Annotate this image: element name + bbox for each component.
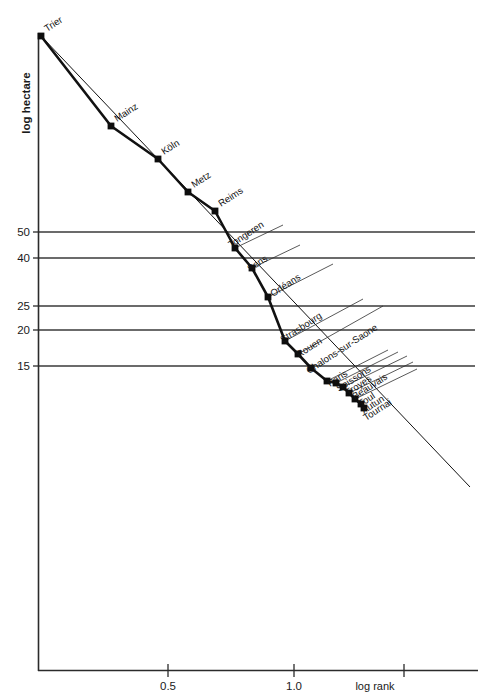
marker-koln [155, 156, 162, 163]
marker-metz [185, 189, 192, 196]
x-axis-title: log rank [355, 680, 395, 692]
chart-background [0, 0, 484, 699]
y-axis-title: log hectare [20, 72, 32, 133]
y-tick-label-50: 50 [17, 226, 30, 238]
marker-reims [212, 208, 219, 215]
x-tick-label-1-0: 1.0 [286, 680, 302, 692]
x-tick-label-0-5: 0.5 [160, 680, 176, 692]
marker-trier [38, 33, 45, 40]
marker-mainz [108, 123, 115, 130]
y-tick-label-25: 25 [17, 300, 30, 312]
y-tick-label-15: 15 [17, 360, 30, 372]
chart-canvas: 50 40 25 20 15 0.5 1.0 log hectare log r… [0, 0, 484, 699]
y-tick-label-20: 20 [17, 324, 30, 336]
rank-size-chart: 50 40 25 20 15 0.5 1.0 log hectare log r… [0, 0, 484, 699]
y-tick-label-40: 40 [17, 252, 30, 264]
